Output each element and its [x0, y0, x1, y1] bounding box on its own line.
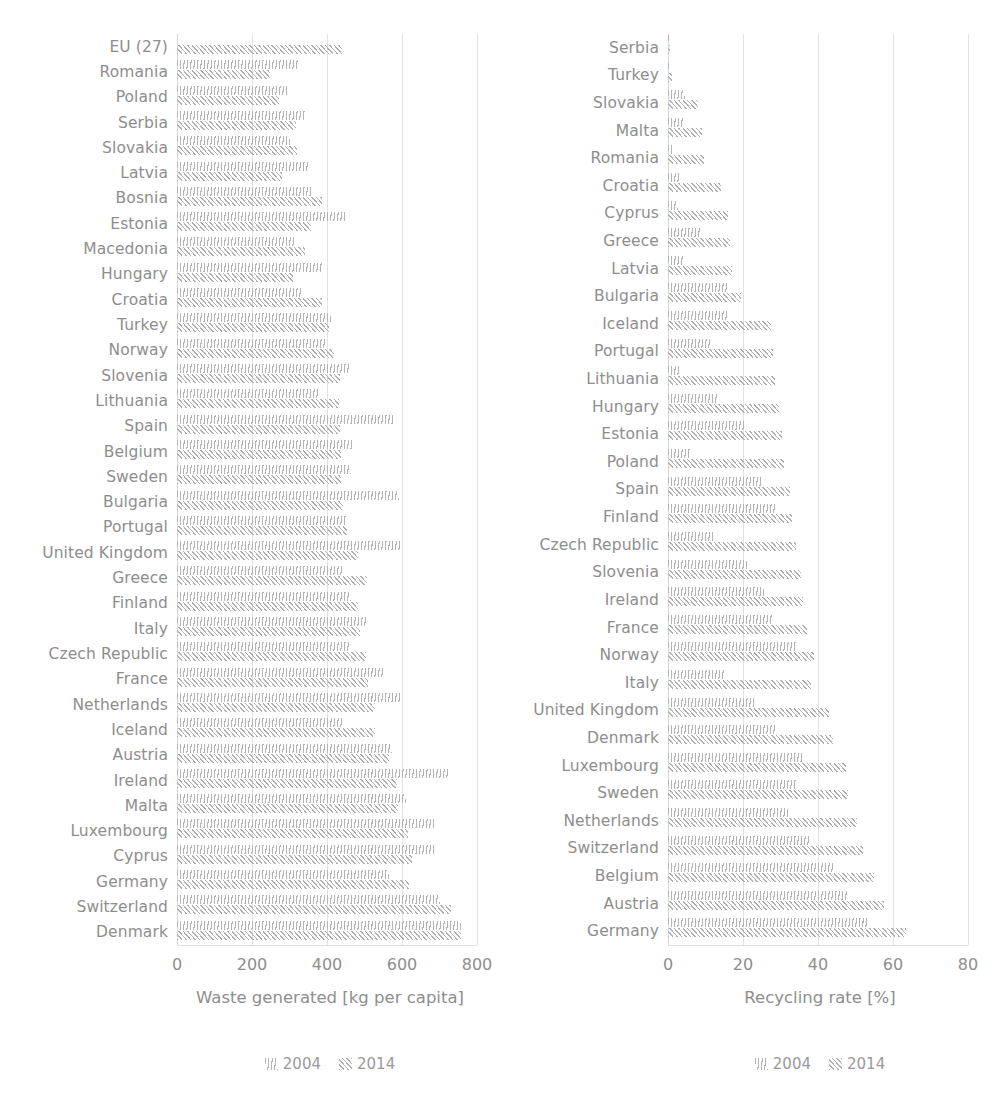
- panel-waste-generated: EU (27)RomaniaPolandSerbiaSlovakiaLatvia…: [0, 0, 510, 1102]
- x-axis-title-waste-generated: Waste generated [kg per capita]: [100, 988, 560, 1007]
- bar-2014: [668, 376, 775, 385]
- x-tick-label-800: 800: [462, 955, 493, 974]
- vertical-hatch-swatch-icon: [755, 1058, 768, 1070]
- category-label: United Kingdom: [42, 540, 168, 565]
- bar-row: Cyprus: [177, 844, 477, 869]
- category-label: Lithuania: [586, 365, 659, 393]
- category-label: Hungary: [592, 393, 659, 421]
- bar-row: Switzerland: [177, 894, 477, 919]
- category-label: Austria: [113, 743, 168, 768]
- bar-2014: [177, 931, 461, 940]
- category-label: Netherlands: [563, 807, 659, 835]
- bar-2014: [668, 211, 728, 220]
- category-label: Romania: [591, 144, 659, 172]
- x-tick-label-0: 0: [663, 955, 673, 974]
- bar-2004: [177, 237, 296, 246]
- gridline-800: [477, 34, 478, 945]
- bar-row: Italy: [177, 616, 477, 641]
- legend-item-2004[interactable]: 2004: [755, 1055, 811, 1073]
- category-label: Hungary: [101, 262, 168, 287]
- x-axis-baseline: [177, 945, 477, 946]
- bar-row: Belgium: [177, 439, 477, 464]
- category-label: Portugal: [594, 338, 659, 366]
- category-label: Greece: [112, 565, 168, 590]
- category-label: Malta: [616, 117, 659, 145]
- category-label: Bulgaria: [594, 282, 659, 310]
- bar-2014: [668, 570, 801, 579]
- bar-2004: [668, 63, 671, 72]
- bar-row: Slovakia: [668, 89, 968, 117]
- category-label: Spain: [124, 414, 168, 439]
- bar-row: Serbia: [177, 110, 477, 135]
- bar-2014: [177, 728, 375, 737]
- legend-label: 2004: [283, 1055, 321, 1073]
- bar-2014: [177, 45, 342, 54]
- bar-row: Iceland: [177, 717, 477, 742]
- bar-row: Greece: [177, 565, 477, 590]
- bar-row: Greece: [668, 227, 968, 255]
- category-label: Serbia: [118, 110, 168, 135]
- bar-row: Latvia: [668, 255, 968, 283]
- bar-2014: [177, 905, 451, 914]
- bar-2004: [668, 725, 777, 734]
- category-label: Croatia: [112, 287, 168, 312]
- bar-2014: [177, 374, 340, 383]
- category-label: Poland: [607, 448, 659, 476]
- x-axis-title-recycling-rate: Recycling rate [%]: [560, 988, 1007, 1007]
- bar-row: Estonia: [668, 420, 968, 448]
- category-label: Turkey: [608, 62, 659, 90]
- plot-area-recycling-rate: SerbiaTurkeySlovakiaMaltaRomaniaCroatiaC…: [668, 34, 968, 945]
- bar-2014: [177, 501, 343, 510]
- bar-2014: [668, 293, 741, 302]
- bar-2004: [177, 541, 402, 550]
- bar-row: Lithuania: [668, 365, 968, 393]
- bar-row: Latvia: [177, 161, 477, 186]
- vertical-hatch-swatch-icon: [265, 1058, 278, 1070]
- bar-2014: [668, 652, 814, 661]
- bar-2004: [668, 808, 788, 817]
- category-label: Estonia: [601, 420, 659, 448]
- category-label: Turkey: [117, 312, 168, 337]
- category-label: Portugal: [103, 515, 168, 540]
- bar-2004: [177, 491, 399, 500]
- category-label: Slovenia: [101, 363, 168, 388]
- bar-2014: [177, 779, 397, 788]
- bar-2004: [668, 477, 761, 486]
- bar-2014: [668, 321, 771, 330]
- bar-row: Finland: [668, 503, 968, 531]
- category-label: Denmark: [96, 920, 168, 945]
- bar-2004: [668, 642, 796, 651]
- bar-row: Slovenia: [668, 559, 968, 587]
- bar-2004: [177, 263, 323, 272]
- category-label: Slovakia: [102, 135, 168, 160]
- bar-row: Denmark: [668, 724, 968, 752]
- bar-row: Romania: [177, 59, 477, 84]
- legend-item-2014[interactable]: 2014: [339, 1055, 395, 1073]
- bar-row: Malta: [668, 117, 968, 145]
- bar-2014: [177, 298, 322, 307]
- legend-label: 2014: [357, 1055, 395, 1073]
- category-label: Slovakia: [593, 89, 659, 117]
- bar-2004: [668, 698, 754, 707]
- bar-row: Italy: [668, 669, 968, 697]
- bar-2014: [177, 829, 408, 838]
- category-label: Bulgaria: [103, 490, 168, 515]
- bar-2004: [668, 173, 681, 182]
- bar-2014: [177, 121, 296, 130]
- bar-2004: [177, 364, 350, 373]
- bar-row: Norway: [668, 641, 968, 669]
- bar-row: Bulgaria: [668, 282, 968, 310]
- x-tick-label-0: 0: [172, 955, 182, 974]
- bar-2014: [177, 70, 270, 79]
- legend-item-2004[interactable]: 2004: [265, 1055, 321, 1073]
- legend-item-2014[interactable]: 2014: [829, 1055, 885, 1073]
- bar-row: Switzerland: [668, 835, 968, 863]
- bar-2004: [668, 339, 710, 348]
- category-label: Luxembourg: [561, 752, 659, 780]
- bar-row: Poland: [668, 448, 968, 476]
- bar-2014: [177, 754, 389, 763]
- category-label: Czech Republic: [49, 641, 168, 666]
- bar-2004: [177, 465, 351, 474]
- bar-2014: [177, 804, 398, 813]
- bar-2004: [668, 201, 678, 210]
